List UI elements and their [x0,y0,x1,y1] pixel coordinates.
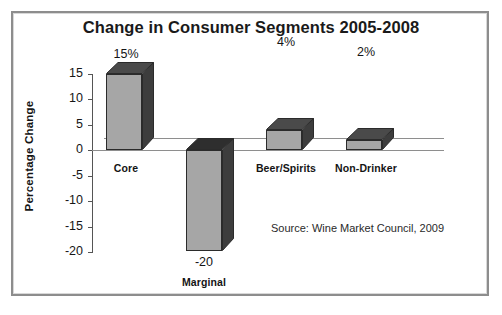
bar-core-side-face [142,62,154,150]
category-label-beer-spirits: Beer/Spirits [244,162,328,174]
y-tick-neg5: -5 [88,176,93,177]
category-label-core: Core [96,162,156,174]
bar-marginal-side-face [222,138,234,251]
y-axis-line [92,74,93,252]
y-tick-label-0: 0 [49,142,83,156]
bar-marginal-front-face [186,150,222,251]
chart-figure: Change in Consumer Segments 2005-2008 Pe… [0,0,502,315]
y-tick-5: 5 [88,125,93,126]
y-tick-label-10: 10 [49,91,83,105]
bar-core-front-face [106,74,142,150]
bar-value-beer-spirits: 4% [258,35,314,49]
y-tick-label-neg5: -5 [49,168,83,182]
bar-beer-spirits-front-face [266,130,302,150]
category-label-non-drinker: Non-Drinker [324,162,408,174]
zero-baseline-front [92,150,444,151]
bar-non-drinker[interactable] [346,140,382,150]
y-tick-neg15: -15 [88,227,93,228]
bar-non-drinker-front-face [346,140,382,150]
y-tick-neg10: -10 [88,201,93,202]
category-label-marginal: Marginal [174,276,234,288]
y-tick-10: 10 [88,99,93,100]
y-axis-title: Percentage Change [23,91,35,221]
bar-value-marginal: -20 [176,255,232,269]
bar-beer-spirits-side-face [302,118,314,150]
bar-value-core: 15% [98,47,154,61]
bar-beer-spirits[interactable] [266,130,302,150]
y-tick-label-15: 15 [49,66,83,80]
bar-non-drinker-side-face [382,128,394,150]
y-tick-label-neg20: -20 [49,244,83,258]
source-note: Source: Wine Market Council, 2009 [271,222,444,234]
y-tick-label-neg10: -10 [49,193,83,207]
chart-title: Change in Consumer Segments 2005-2008 [0,18,502,37]
y-tick-neg20: -20 [88,252,93,253]
y-tick-15: 15 [88,74,93,75]
bar-core[interactable] [106,74,142,150]
y-tick-label-neg15: -15 [49,219,83,233]
bar-value-non-drinker: 2% [338,45,394,59]
y-tick-label-5: 5 [49,117,83,131]
bar-marginal[interactable] [186,150,222,251]
